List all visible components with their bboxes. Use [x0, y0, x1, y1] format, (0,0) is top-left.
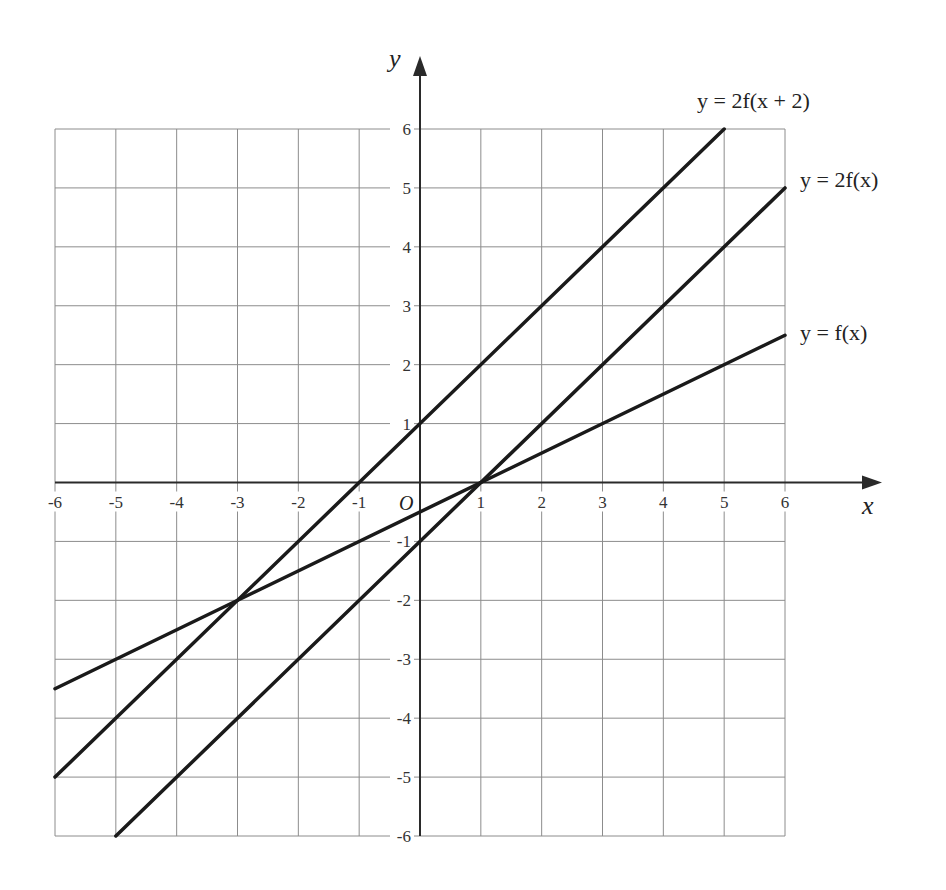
x-tick-label: 5	[720, 493, 729, 512]
y-axis-arrow-icon	[413, 56, 427, 76]
x-tick-label: 4	[659, 493, 668, 512]
x-axis-label: x	[861, 491, 874, 520]
y-tick-label: 3	[403, 297, 412, 316]
y-tick-label: -6	[397, 827, 411, 846]
x-tick-label: -6	[48, 493, 62, 512]
x-tick-label: -5	[109, 493, 123, 512]
function-graph: -6-5-4-3-2-1123456654321-1-2-3-4-5-6 x y…	[0, 0, 946, 890]
y-tick-label: -3	[397, 650, 411, 669]
x-tick-label: 2	[537, 493, 546, 512]
label-2f-x: y = 2f(x)	[800, 167, 878, 192]
y-tick-label: -5	[397, 768, 411, 787]
x-tick-label: -3	[230, 493, 244, 512]
x-tick-label: 3	[598, 493, 607, 512]
series-line	[116, 188, 785, 836]
y-tick-label: -1	[397, 532, 411, 551]
y-tick-label: -2	[397, 591, 411, 610]
y-tick-label: 6	[403, 120, 412, 139]
x-tick-label: 1	[477, 493, 486, 512]
label-2f-x-plus-2: y = 2f(x + 2)	[697, 88, 810, 113]
x-tick-label: -2	[291, 493, 305, 512]
x-tick-label: 6	[781, 493, 790, 512]
y-tick-label: 4	[403, 238, 412, 257]
axes	[55, 56, 882, 836]
origin-label: O	[399, 492, 413, 514]
x-axis-arrow-icon	[862, 476, 882, 490]
y-axis-label: y	[386, 44, 401, 73]
y-tick-label: 1	[403, 415, 412, 434]
x-tick-label: -4	[170, 493, 185, 512]
x-tick-label: -1	[352, 493, 366, 512]
label-f-x: y = f(x)	[800, 320, 867, 345]
y-tick-label: 2	[403, 356, 412, 375]
series-line	[55, 129, 724, 777]
y-tick-label: 5	[403, 179, 412, 198]
y-tick-label: -4	[397, 709, 412, 728]
